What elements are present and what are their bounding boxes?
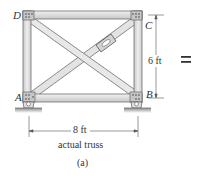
equals-sign	[181, 56, 191, 63]
truss-diagram	[0, 0, 205, 179]
bottom-chord-ab	[23, 94, 142, 102]
joint-label-d: D	[13, 9, 21, 21]
gusset-plate-b	[130, 92, 142, 102]
pin-support-a	[15, 102, 42, 113]
figure-title: actual truss	[58, 139, 103, 150]
joint-label-c: C	[145, 19, 152, 31]
gusset-plate-a	[23, 92, 35, 102]
gusset-plate-d	[23, 11, 34, 20]
joint-label-a: A	[15, 91, 22, 103]
right-column-bc	[134, 11, 142, 102]
pin-support-b	[124, 102, 151, 113]
width-dimension-label: 8 ft	[73, 124, 87, 135]
left-column-ad	[23, 11, 31, 102]
joint-label-b: B	[146, 88, 153, 100]
figure-caption: (a)	[77, 157, 88, 168]
gusset-plate-c	[131, 11, 142, 20]
height-dimension-label: 6 ft	[148, 55, 162, 66]
top-chord-dc	[23, 11, 142, 19]
